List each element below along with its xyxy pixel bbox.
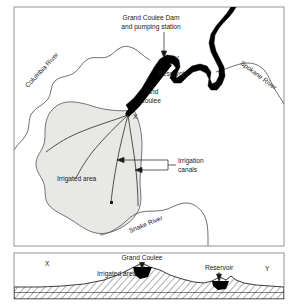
label-grand-coulee-line2: Coulee bbox=[140, 97, 161, 104]
cross-section-panel: X Y Irrigated area Grand Coulee Reservoi… bbox=[14, 253, 284, 299]
label-canals-line2: canals bbox=[178, 166, 198, 173]
label-irrigated-area-map: Irrigated area bbox=[57, 175, 97, 183]
label-section-irrigated-area: Irrigated area bbox=[97, 270, 137, 278]
label-section-reservoir: Reservoir bbox=[205, 264, 234, 271]
point-y-node bbox=[166, 60, 171, 65]
label-point-y: Y bbox=[175, 55, 180, 62]
label-section-x: X bbox=[45, 260, 50, 267]
figure-grand-coulee: Grand Coulee Dam and pumping station Y X… bbox=[0, 0, 298, 306]
label-point-x: X bbox=[133, 113, 138, 120]
label-section-grand-coulee: Grand Coulee bbox=[121, 254, 162, 261]
label-section-y: Y bbox=[265, 265, 270, 272]
canal-terminus-marker bbox=[110, 201, 113, 204]
label-grand-coulee-line1: Grand bbox=[140, 88, 159, 95]
label-dam-title-line1: Grand Coulee Dam bbox=[123, 14, 180, 21]
map-panel: Grand Coulee Dam and pumping station Y X… bbox=[14, 7, 284, 246]
label-reservoir: Reservoir bbox=[158, 70, 187, 77]
label-dam-title-line2: and pumping station bbox=[121, 23, 181, 31]
label-canals-line1: Irrigation bbox=[178, 157, 204, 165]
